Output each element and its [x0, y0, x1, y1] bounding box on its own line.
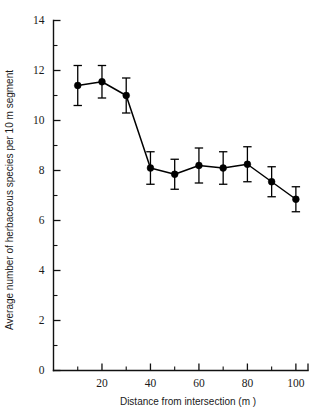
data-point: [220, 165, 227, 172]
chart-figure: 02468101214 20406080100 Average number o…: [0, 0, 323, 420]
chart-background: [0, 0, 323, 420]
y-tick-label: 0: [39, 364, 45, 376]
data-point: [196, 162, 203, 169]
data-point: [74, 82, 81, 89]
x-tick-label: 20: [96, 377, 108, 389]
y-tick-label: 8: [39, 164, 45, 176]
data-point: [147, 165, 154, 172]
data-point: [268, 178, 275, 185]
x-tick-label: 60: [193, 377, 205, 389]
y-tick-label: 6: [39, 214, 45, 226]
data-point: [123, 92, 130, 99]
data-point: [171, 171, 178, 178]
x-tick-label: 80: [242, 377, 254, 389]
x-tick-label: 100: [287, 377, 305, 389]
y-tick-label: 10: [33, 114, 45, 126]
data-point: [244, 161, 251, 168]
y-tick-label: 12: [33, 64, 45, 76]
y-axis-title: Average number of herbaceous species per…: [4, 70, 15, 330]
x-tick-label: 40: [145, 377, 157, 389]
y-tick-label: 14: [33, 14, 45, 26]
y-tick-label: 2: [39, 314, 45, 326]
y-tick-label: 4: [39, 264, 45, 276]
data-point: [99, 78, 106, 85]
data-point: [292, 196, 299, 203]
x-axis-title: Distance from intersection (m ): [120, 396, 256, 407]
line-chart-canvas: 02468101214 20406080100 Average number o…: [0, 0, 323, 420]
